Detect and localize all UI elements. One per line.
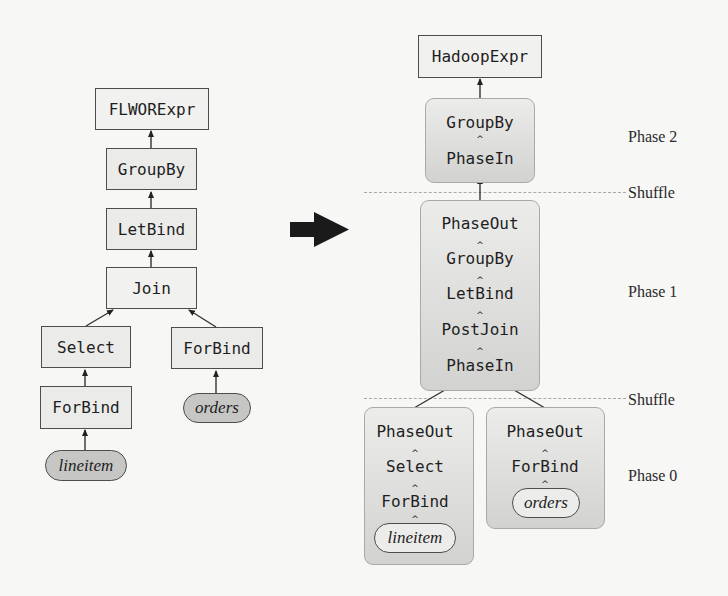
node-forbind-right: ForBind xyxy=(171,327,263,369)
phase2-op-groupby: GroupBy xyxy=(446,114,513,132)
phase0-right-op-forbind: ForBind xyxy=(511,458,578,476)
source-lineitem: lineitem xyxy=(45,450,127,481)
edge-select-to-join xyxy=(86,310,113,326)
source-orders: orders xyxy=(183,393,251,423)
caret-up-icon: ^ xyxy=(411,515,419,524)
label-phase-2: Phase 2 xyxy=(628,128,677,146)
caret-up-icon: ^ xyxy=(541,480,549,489)
label-shuffle-lower: Shuffle xyxy=(628,391,675,409)
edge-forbind-to-join xyxy=(189,310,216,327)
node-flworexpr: FLWORExpr xyxy=(95,88,209,130)
label-phase-0: Phase 0 xyxy=(628,467,677,485)
node-hadoopexpr: HadoopExpr xyxy=(418,35,542,78)
node-forbind-left: ForBind xyxy=(40,386,132,429)
node-letbind: LetBind xyxy=(106,208,197,250)
node-groupby: GroupBy xyxy=(106,148,197,190)
phase0-left-op-phaseout: PhaseOut xyxy=(376,423,453,441)
phase0-source-orders: orders xyxy=(512,488,580,518)
phase1-op-letbind: LetBind xyxy=(446,285,513,303)
label-phase-1: Phase 1 xyxy=(628,283,677,301)
phase0-left-op-select: Select xyxy=(386,458,444,476)
phase1-op-groupby: GroupBy xyxy=(446,250,513,268)
phase0-source-lineitem: lineitem xyxy=(374,523,456,553)
node-join: Join xyxy=(106,267,197,309)
caret-up-icon: ^ xyxy=(476,347,484,356)
right-arrow-icon xyxy=(290,212,349,247)
phase1-op-postjoin: PostJoin xyxy=(441,321,518,339)
node-select: Select xyxy=(41,326,131,368)
phase0-right-op-phaseout: PhaseOut xyxy=(506,423,583,441)
phase1-op-phasein: PhaseIn xyxy=(446,357,513,375)
phase2-op-phasein: PhaseIn xyxy=(446,150,513,168)
caret-up-icon: ^ xyxy=(476,135,484,144)
phase0-left-op-forbind: ForBind xyxy=(381,493,448,511)
caret-up-icon: ^ xyxy=(476,311,484,320)
phase1-op-phaseout: PhaseOut xyxy=(441,215,518,233)
label-shuffle-upper: Shuffle xyxy=(628,184,675,202)
